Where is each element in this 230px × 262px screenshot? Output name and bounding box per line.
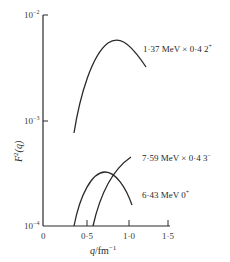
series-label-2plus: 1·37 MeV × 0·4 2+ [143, 43, 212, 54]
series-label-0plus: 6·43 MeV 0+ [142, 189, 190, 200]
curve-2plus [74, 40, 146, 133]
y-axis-label: F2(q) [12, 140, 25, 163]
x-axis-label: q/fm−1 [90, 244, 117, 256]
x-tick-label-1.0: 1·0 [123, 231, 135, 241]
form-factor-chart: 10−2 10−3 10−4 0 0·5 1·0 1·5 q/fm−1 F2(q… [0, 0, 230, 262]
y-tick-label-1e-3: 10−3 [24, 115, 39, 126]
series-label-3minus: 7·59 MeV × 0·4 3− [142, 152, 211, 163]
x-tick-label-0: 0 [41, 231, 46, 241]
y-tick-label-1e-2: 10−2 [24, 9, 39, 20]
x-tick-label-1.5: 1·5 [162, 231, 174, 241]
x-tick-label-0.5: 0·5 [81, 231, 93, 241]
curve-3minus [93, 157, 131, 226]
curve-0plus [74, 172, 132, 226]
y-tick-label-1e-4: 10−4 [24, 220, 39, 231]
